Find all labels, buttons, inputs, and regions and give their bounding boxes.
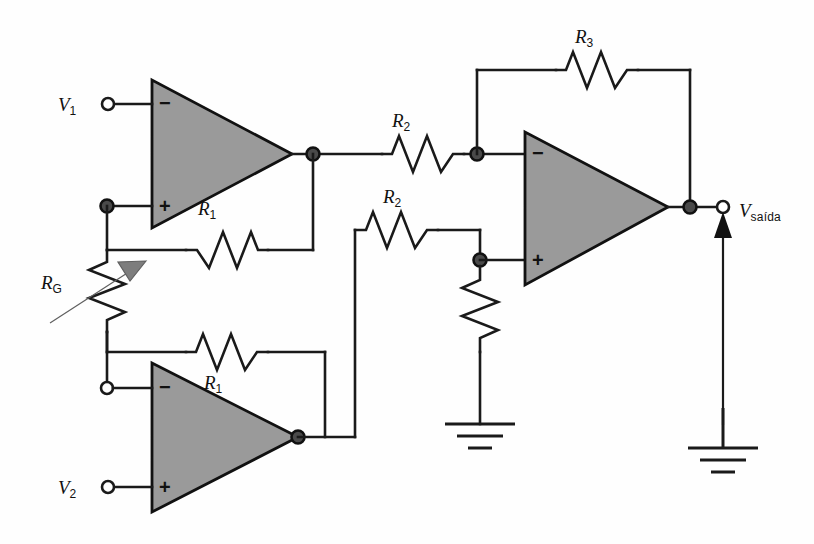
label-v2-base: V <box>58 477 70 498</box>
label-v1-base: V <box>58 94 70 115</box>
label-v1: V1 <box>58 94 76 116</box>
opamp-right-plus-sign: + <box>532 250 544 270</box>
opamp-bottom-left[interactable] <box>152 363 298 512</box>
opamp-bottom-left-minus-sign: − <box>159 377 171 397</box>
v1-terminal[interactable] <box>102 98 114 110</box>
label-r3: R3 <box>575 26 593 48</box>
label-r2-bottom: R2 <box>383 186 401 208</box>
label-r2-top-sub: 2 <box>404 120 411 134</box>
label-r1-bottom: R1 <box>204 372 222 394</box>
label-rg-base: R <box>41 272 53 293</box>
label-vout: Vsaída <box>739 200 781 222</box>
label-rg-sub: G <box>53 282 63 296</box>
resistor-r3-shunt[interactable] <box>462 266 498 352</box>
resistor-r1-bottom[interactable] <box>186 334 268 370</box>
opamp-right[interactable] <box>525 132 668 285</box>
opamp-top-left[interactable] <box>152 80 292 228</box>
opamp-top-left-plus-sign: + <box>159 196 171 216</box>
resistor-r3[interactable] <box>556 52 638 88</box>
opamp-right-minus-sign: − <box>532 143 544 163</box>
label-r2-top-base: R <box>392 110 404 131</box>
label-r1-top: R1 <box>198 198 216 220</box>
opamp-bottom-left-plus-sign: + <box>159 477 171 497</box>
label-vout-sub: saída <box>751 210 781 224</box>
label-r3-sub: 3 <box>587 36 594 50</box>
opamp-top-left-minus-sign: − <box>159 93 171 113</box>
vout-arrow <box>714 212 732 448</box>
label-v2: V2 <box>58 477 76 499</box>
label-r1-bottom-sub: 1 <box>216 382 223 396</box>
node-a3-output <box>684 201 697 214</box>
ground-output <box>688 448 758 472</box>
label-v2-sub: 2 <box>70 487 77 501</box>
node-a2-minus-terminal[interactable] <box>101 382 113 394</box>
label-r2-top: R2 <box>392 110 410 132</box>
resistor-r2-bottom[interactable] <box>355 212 438 248</box>
label-rg: RG <box>41 272 62 294</box>
vout-terminal[interactable] <box>717 201 729 213</box>
resistor-r1-top[interactable] <box>186 232 268 268</box>
schematic-canvas: V1 V2 Vsaída R1 R1 R2 R2 R3 RG − + − + −… <box>0 0 814 544</box>
resistor-r2-top[interactable] <box>382 136 464 172</box>
label-r2-bottom-sub: 2 <box>395 196 402 210</box>
label-r1-top-base: R <box>198 198 210 219</box>
label-r2-bottom-base: R <box>383 186 395 207</box>
label-v1-sub: 1 <box>70 104 77 118</box>
label-vout-base: V <box>739 200 751 221</box>
label-r3-base: R <box>575 26 587 47</box>
v2-terminal[interactable] <box>102 481 114 493</box>
label-r1-top-sub: 1 <box>210 208 217 222</box>
ground-mid <box>445 424 515 448</box>
rg-wiper-arrow[interactable] <box>50 261 146 323</box>
label-r1-bottom-base: R <box>204 372 216 393</box>
circuit-drawing <box>0 0 814 544</box>
